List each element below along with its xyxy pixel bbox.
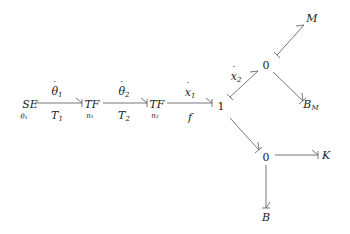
node-se-sub: θ₁ [20, 114, 27, 121]
label-x1-dot: x1 [185, 87, 196, 100]
bond-one-zero-bottom [230, 118, 262, 153]
node-k: K [322, 150, 330, 161]
bond-se-tf1 [36, 98, 82, 107]
theta2-sub: 2 [125, 91, 129, 99]
node-bm-label: B [303, 98, 311, 111]
bond-zero-top-m [274, 25, 304, 58]
label-f: f [188, 112, 192, 123]
node-m: M [306, 13, 317, 24]
node-bm-sub: M [311, 104, 318, 112]
bond-zero-bottom-k [275, 150, 318, 159]
x1-sub: 1 [191, 92, 195, 100]
node-b: B [262, 212, 270, 223]
label-theta1-dot: θ1 [51, 86, 62, 99]
bond-zero-top-bm [273, 72, 306, 104]
theta1-sub: 1 [58, 91, 62, 99]
bond-tf1-tf2 [103, 98, 147, 107]
node-zero-junction-top: 0 [263, 60, 270, 71]
label-t2: T2 [118, 110, 130, 123]
node-tf1: TF [85, 99, 100, 110]
x2-sub: 2 [237, 76, 241, 84]
node-bm: BM [303, 99, 318, 112]
node-one-junction: 1 [218, 101, 225, 112]
label-t1: T1 [51, 110, 63, 123]
bond-zero-bottom-b [262, 165, 270, 208]
node-se: SE [22, 99, 38, 110]
x1-symbol: x [185, 87, 191, 98]
t1-sub: 1 [58, 115, 62, 123]
label-theta2-dot: θ2 [118, 86, 129, 99]
node-zero-junction-bottom: 0 [263, 152, 270, 163]
label-x2-dot: x2 [231, 71, 242, 84]
node-tf1-sub: n₁ [86, 113, 93, 120]
node-tf2-sub: n₂ [151, 113, 158, 120]
x2-symbol: x [231, 71, 237, 82]
theta1-symbol: θ [51, 86, 58, 97]
bond-graph-diagram: SE θ₁ TF n₁ TF n₂ 1 0 0 M BM K B θ1 T1 θ… [0, 0, 350, 234]
node-tf2: TF [150, 99, 165, 110]
theta2-symbol: θ [118, 86, 125, 97]
t2-sub: 2 [125, 115, 129, 123]
